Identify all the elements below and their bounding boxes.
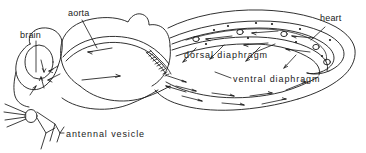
label-antennal-vesicle: antennal vesicle <box>66 129 145 139</box>
antennal-vesicle-bulb <box>25 110 37 123</box>
label-dorsal-diaphragm: dorsal diaphragm <box>184 50 268 60</box>
mouthparts <box>37 112 64 149</box>
coiled-aorta-segment <box>146 50 171 76</box>
body-ventral-wall <box>62 86 170 109</box>
figure-canvas: brain aorta heart dorsal diaphragm ventr… <box>0 0 366 153</box>
heart-leader-line <box>311 27 325 40</box>
brain-oval <box>25 45 53 79</box>
label-ventral-diaphragm: ventral diaphragm <box>233 74 320 84</box>
label-heart: heart <box>320 13 342 23</box>
label-aorta: aorta <box>68 8 90 18</box>
thorax-outline <box>61 14 171 86</box>
antennae <box>4 104 26 127</box>
label-brain: brain <box>20 30 41 40</box>
aorta-leader-line <box>82 20 97 48</box>
thorax-flow-arrow <box>82 74 120 80</box>
ventral-diaphragm-leader-line <box>215 72 231 78</box>
aorta-flow-arrow <box>88 48 112 54</box>
